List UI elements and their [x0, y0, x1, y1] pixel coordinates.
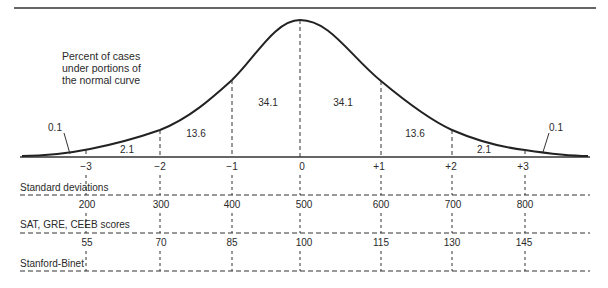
right-tail-leader — [543, 133, 549, 152]
row-label-standard-deviations: Standard deviations — [20, 182, 108, 194]
binet-value: 115 — [373, 237, 389, 249]
sd-value: +3 — [517, 161, 528, 173]
area-minus1-zero: 34.1 — [258, 97, 277, 109]
area-plus1-plus2: 13.6 — [405, 128, 424, 140]
sat-value: 700 — [445, 199, 462, 211]
sd-value: −2 — [154, 161, 165, 173]
binet-value: 130 — [444, 237, 461, 249]
normal-curve — [22, 20, 588, 156]
area-minus2-minus1: 13.6 — [186, 128, 205, 140]
area-minus3-minus2: 2.1 — [120, 144, 134, 156]
caption-line-1: Percent of cases — [62, 50, 141, 62]
binet-value: 85 — [226, 237, 237, 249]
area-right-tail: 0.1 — [549, 122, 563, 134]
sat-value: 600 — [373, 199, 390, 211]
sat-value: 500 — [296, 199, 313, 211]
binet-value: 70 — [155, 237, 166, 249]
row-label-stanford-binet: Stanford-Binet — [20, 258, 84, 270]
sat-value: 300 — [153, 199, 170, 211]
row-label-sat-scores: SAT, GRE, CEEB scores — [20, 219, 130, 231]
caption-line-2: under portions of — [62, 62, 141, 74]
sd-value: −3 — [80, 161, 91, 173]
sat-value: 400 — [224, 199, 241, 211]
sd-value: +1 — [373, 161, 384, 173]
area-plus2-plus3: 2.1 — [477, 144, 491, 156]
sd-value: 0 — [299, 161, 305, 173]
binet-value: 100 — [296, 237, 313, 249]
sat-value: 200 — [79, 199, 96, 211]
figure-caption: Percent of cases under portions of the n… — [62, 50, 141, 86]
sd-lines — [86, 20, 525, 157]
sat-value: 800 — [517, 199, 534, 211]
normal-curve-figure: Percent of cases under portions of the n… — [0, 0, 608, 288]
binet-value: 55 — [81, 237, 92, 249]
area-zero-plus1: 34.1 — [333, 97, 352, 109]
scale-tick-lines — [86, 175, 525, 271]
binet-value: 145 — [516, 237, 533, 249]
caption-line-3: the normal curve — [62, 74, 141, 86]
sd-value: −1 — [226, 161, 237, 173]
left-tail-leader — [64, 133, 70, 154]
sd-value: +2 — [445, 161, 456, 173]
area-left-tail: 0.1 — [48, 122, 62, 134]
